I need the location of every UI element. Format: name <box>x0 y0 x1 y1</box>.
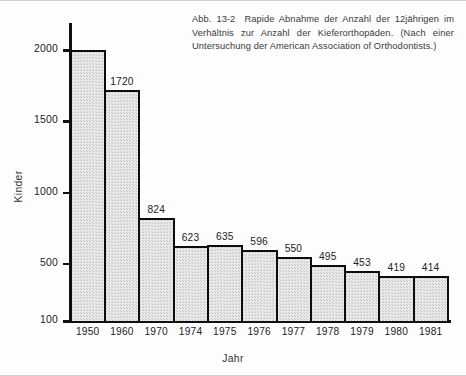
y-axis-tick-label: 100 <box>14 314 58 325</box>
bar <box>172 246 209 321</box>
bar <box>207 245 244 321</box>
bar <box>275 257 312 321</box>
figure-container: Abb. 13-2Rapide Abnahme der Anzahl der 1… <box>0 0 466 376</box>
bar <box>344 271 381 321</box>
bar <box>70 50 107 321</box>
bar-value-label: 414 <box>405 262 457 273</box>
bar <box>378 276 415 321</box>
bar <box>104 90 141 321</box>
bar <box>310 265 347 321</box>
y-axis-tick-label: 1500 <box>14 114 58 125</box>
bar <box>138 218 175 321</box>
x-axis-tick-label: 1981 <box>408 326 454 337</box>
y-axis-title: Kinder <box>13 157 24 217</box>
bar <box>241 250 278 321</box>
y-axis-tick-label: 2000 <box>14 43 58 54</box>
bar-chart-plot: 200015001000500100 172082462363559655049… <box>0 1 466 376</box>
bar <box>413 276 450 321</box>
x-axis-title: Jahr <box>0 353 466 364</box>
y-axis-tick-label: 500 <box>14 257 58 268</box>
